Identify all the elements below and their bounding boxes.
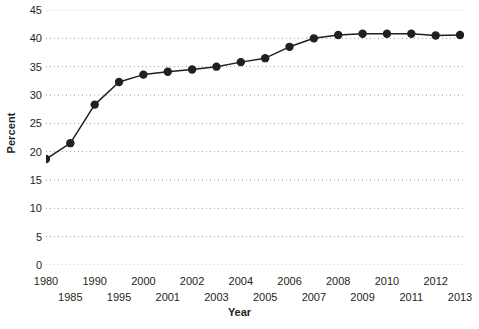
y-axis-tick-label: 0: [16, 260, 42, 271]
x-axis-tick-label: 2009: [350, 292, 374, 303]
data-point-marker: [407, 30, 415, 38]
x-axis-tick-label: 2000: [131, 276, 155, 287]
data-point-marker: [164, 68, 172, 76]
data-point-marker: [115, 78, 123, 86]
plot-svg: [46, 10, 464, 265]
data-point-marker: [431, 31, 439, 39]
x-axis-tick-label: 1990: [82, 276, 106, 287]
data-point-marker: [334, 31, 342, 39]
y-axis-tick-label: 5: [16, 231, 42, 242]
x-axis-tick-label: 2002: [180, 276, 204, 287]
data-point-marker: [188, 65, 196, 73]
data-series-line: [46, 34, 460, 159]
x-axis-tick-label: 1985: [58, 292, 82, 303]
y-axis-tick-label: 20: [16, 146, 42, 157]
y-axis-tick-label: 35: [16, 61, 42, 72]
data-point-marker: [139, 70, 147, 78]
x-axis-tick-label: 2012: [423, 276, 447, 287]
y-axis-tick-label: 15: [16, 175, 42, 186]
plot-area: [46, 10, 464, 265]
data-point-marker: [456, 31, 464, 39]
x-axis-tick-label: 2010: [375, 276, 399, 287]
data-point-marker: [237, 58, 245, 66]
x-axis-tick-label: 2005: [253, 292, 277, 303]
data-point-marker: [261, 54, 269, 62]
x-axis-title: Year: [0, 306, 479, 318]
x-axis-tick-label: 2011: [399, 292, 423, 303]
x-axis-tick-label: 2001: [156, 292, 180, 303]
y-axis-tick-labels: 051015202530354045: [12, 0, 42, 275]
x-axis-tick-labels: 1980198519901995200020012002200320042005…: [0, 270, 479, 306]
data-point-marker: [91, 100, 99, 108]
line-chart: Percent 051015202530354045 1980198519901…: [0, 0, 479, 329]
x-axis-tick-label: 2004: [229, 276, 253, 287]
data-point-marker: [66, 139, 74, 147]
y-axis-tick-label: 45: [16, 5, 42, 16]
x-axis-tick-label: 2008: [326, 276, 350, 287]
x-axis-tick-label: 2007: [302, 292, 326, 303]
y-axis-tick-label: 40: [16, 33, 42, 44]
y-axis-tick-label: 30: [16, 90, 42, 101]
x-axis-tick-label: 2006: [277, 276, 301, 287]
data-point-marker: [285, 43, 293, 51]
y-axis-tick-label: 25: [16, 118, 42, 129]
data-point-marker: [358, 30, 366, 38]
x-axis-tick-label: 2013: [448, 292, 472, 303]
x-axis-title-label: Year: [228, 306, 251, 318]
x-axis-tick-label: 1995: [107, 292, 131, 303]
y-axis-tick-label: 10: [16, 203, 42, 214]
x-axis-tick-label: 2003: [204, 292, 228, 303]
data-point-marker: [212, 62, 220, 70]
data-point-marker: [383, 30, 391, 38]
x-axis-tick-label: 1980: [34, 276, 58, 287]
data-point-marker: [310, 34, 318, 42]
